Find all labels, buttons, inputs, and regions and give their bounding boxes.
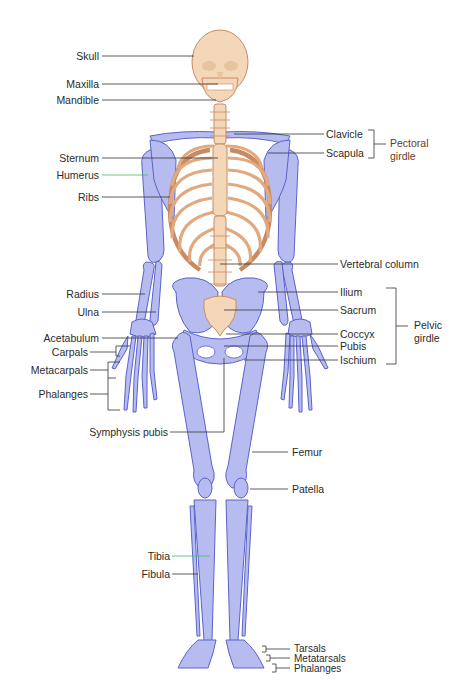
- label-scapula: Scapula: [326, 147, 364, 159]
- pelvic-line2: girdle: [414, 332, 442, 345]
- label-ilium: Ilium: [340, 286, 362, 298]
- label-mandible: Mandible: [56, 94, 99, 106]
- label-maxilla: Maxilla: [66, 78, 99, 90]
- skull: [192, 30, 248, 102]
- pelvic-line1: Pelvic: [414, 319, 442, 332]
- label-coccyx: Coccyx: [340, 328, 374, 340]
- label-fibula: Fibula: [141, 568, 170, 580]
- label-metacarpals: Metacarpals: [31, 364, 88, 376]
- label-hand-phalanges: Phalanges: [38, 388, 88, 400]
- label-ulna: Ulna: [77, 306, 99, 318]
- label-clavicle: Clavicle: [326, 128, 363, 140]
- group-pelvic-girdle: Pelvic girdle: [414, 319, 442, 345]
- label-sternum: Sternum: [59, 152, 99, 164]
- label-acetabulum: Acetabulum: [44, 332, 99, 344]
- label-foot-phalanges: Phalanges: [294, 663, 341, 675]
- label-skull: Skull: [76, 50, 99, 62]
- label-ribs: Ribs: [78, 191, 99, 203]
- pectoral-line2: girdle: [390, 150, 429, 163]
- skeleton-diagram: .ap { fill:#b7bcf0; stroke:#5a63c9; stro…: [0, 0, 466, 690]
- group-pectoral-girdle: Pectoral girdle: [390, 137, 429, 163]
- pectoral-line1: Pectoral: [390, 137, 429, 150]
- label-femur: Femur: [292, 446, 322, 458]
- left-arm: [112, 149, 164, 412]
- label-tibia: Tibia: [148, 550, 170, 562]
- label-humerus: Humerus: [56, 169, 99, 181]
- label-sacrum: Sacrum: [340, 304, 376, 316]
- label-patella: Patella: [292, 483, 324, 495]
- legs: [172, 332, 267, 668]
- label-radius: Radius: [66, 288, 99, 300]
- label-ischium: Ischium: [340, 354, 376, 366]
- label-vertebral-column: Vertebral column: [340, 258, 419, 270]
- label-pubis: Pubis: [340, 340, 366, 352]
- label-symphysis-pubis: Symphysis pubis: [89, 426, 168, 438]
- label-carpals: Carpals: [52, 346, 88, 358]
